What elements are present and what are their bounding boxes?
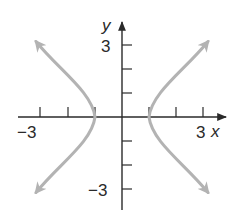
hyperbola-graph: y 3 −3 −3 3 x	[0, 0, 238, 220]
x-tick-label-neg3: −3	[17, 123, 36, 142]
y-tick-label-neg3: −3	[88, 181, 107, 200]
x-tick-label-pos3: 3	[196, 123, 205, 142]
y-axis-label: y	[101, 16, 112, 35]
x-axis-label: x	[210, 122, 220, 141]
y-tick-label-pos3: 3	[101, 37, 110, 56]
